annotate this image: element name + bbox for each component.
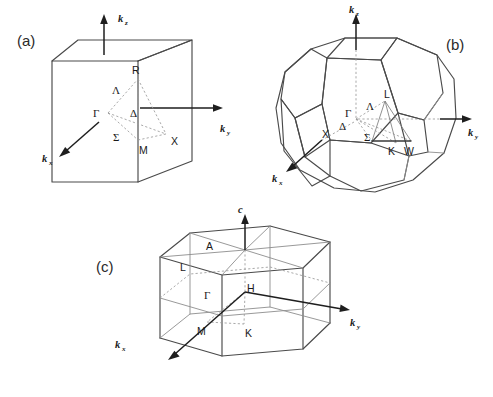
brillouin-zone-figure: R Γ X M Λ Δ Σ k z k y k x (a) <box>0 0 493 397</box>
poly-outline <box>276 38 456 192</box>
axis-kz-b <box>352 14 360 118</box>
label-X-a: X <box>171 135 178 147</box>
label-Delta-b: Δ <box>339 120 346 132</box>
svg-text:y: y <box>474 133 479 141</box>
svg-text:x: x <box>48 159 53 167</box>
hex-face-bottom-front <box>330 140 409 191</box>
svg-text:z: z <box>355 10 359 18</box>
label-K-c: K <box>245 327 252 339</box>
axis-kz-a <box>100 14 108 55</box>
svg-text:y: y <box>226 129 231 137</box>
label-R: R <box>132 64 140 76</box>
panel-label-b: (b) <box>446 36 464 53</box>
svg-text:k: k <box>115 339 121 350</box>
panel-b-fcc: L Γ Λ Σ K W X Δ k z k y k x (b) <box>272 4 479 192</box>
svg-text:k: k <box>272 173 278 184</box>
top-square-face <box>327 38 397 60</box>
label-K-b: K <box>388 145 395 157</box>
axis-label-ky-b: k y <box>468 127 479 141</box>
svg-text:k: k <box>118 13 124 24</box>
axis-label-kx-c: k x <box>115 339 126 353</box>
svg-text:k: k <box>349 4 355 15</box>
axis-label-ky-c: k y <box>350 317 361 331</box>
label-A-c: A <box>206 240 213 252</box>
svg-text:k: k <box>350 317 356 328</box>
cube-front-face <box>52 61 138 182</box>
label-L-c: L <box>180 261 186 273</box>
axis-kx-c <box>168 292 245 360</box>
label-Gamma-c: Γ <box>204 289 210 301</box>
axis-c-c <box>241 214 249 250</box>
label-Lambda-a: Λ <box>112 84 120 96</box>
cube-right-face <box>138 40 192 182</box>
panel-a-simple-cubic: R Γ X M Λ Δ Σ k z k y k x (a) <box>17 13 231 182</box>
edge-hint-right <box>424 93 443 120</box>
label-Gamma-a: Γ <box>93 107 99 119</box>
axis-label-kz-b: k z <box>349 4 359 18</box>
axis-label-kz-a: k z <box>118 13 128 27</box>
axis-label-kx-b: k x <box>272 173 283 187</box>
svg-text:z: z <box>124 19 128 27</box>
svg-text:x: x <box>121 345 126 353</box>
label-Delta-a: Δ <box>130 107 137 119</box>
hex-face-front-center <box>322 58 398 143</box>
prism-midplane-front <box>160 283 330 316</box>
label-L-b: L <box>384 88 390 100</box>
label-M-c: M <box>197 325 206 337</box>
svg-text:k: k <box>220 123 226 134</box>
hex-face-upper-right <box>381 38 443 120</box>
label-Gamma-b: Γ <box>345 107 351 119</box>
axis-label-ky-a: k y <box>220 123 231 137</box>
axis-label-kx-a: k x <box>42 153 53 167</box>
label-Sigma-a: Σ <box>113 131 119 143</box>
panel-label-a: (a) <box>17 32 35 49</box>
cube-top-face <box>52 40 192 61</box>
svg-text:k: k <box>42 153 48 164</box>
label-Lambda-b: Λ <box>366 100 374 112</box>
axis-kx-a <box>59 122 99 157</box>
label-W-b: W <box>404 145 414 157</box>
label-H-c: H <box>247 282 255 294</box>
svg-text:x: x <box>278 179 283 187</box>
label-X-b: X <box>322 128 329 140</box>
label-Sigma-b: Σ <box>364 131 370 143</box>
panel-label-c: (c) <box>96 258 114 275</box>
label-M-a: M <box>139 144 148 156</box>
svg-text:k: k <box>468 127 474 138</box>
svg-text:y: y <box>356 323 361 331</box>
panel-c-hexagonal: A L H Γ M K c k y k x (c) <box>96 204 361 360</box>
axis-label-c-c: c <box>238 204 243 215</box>
